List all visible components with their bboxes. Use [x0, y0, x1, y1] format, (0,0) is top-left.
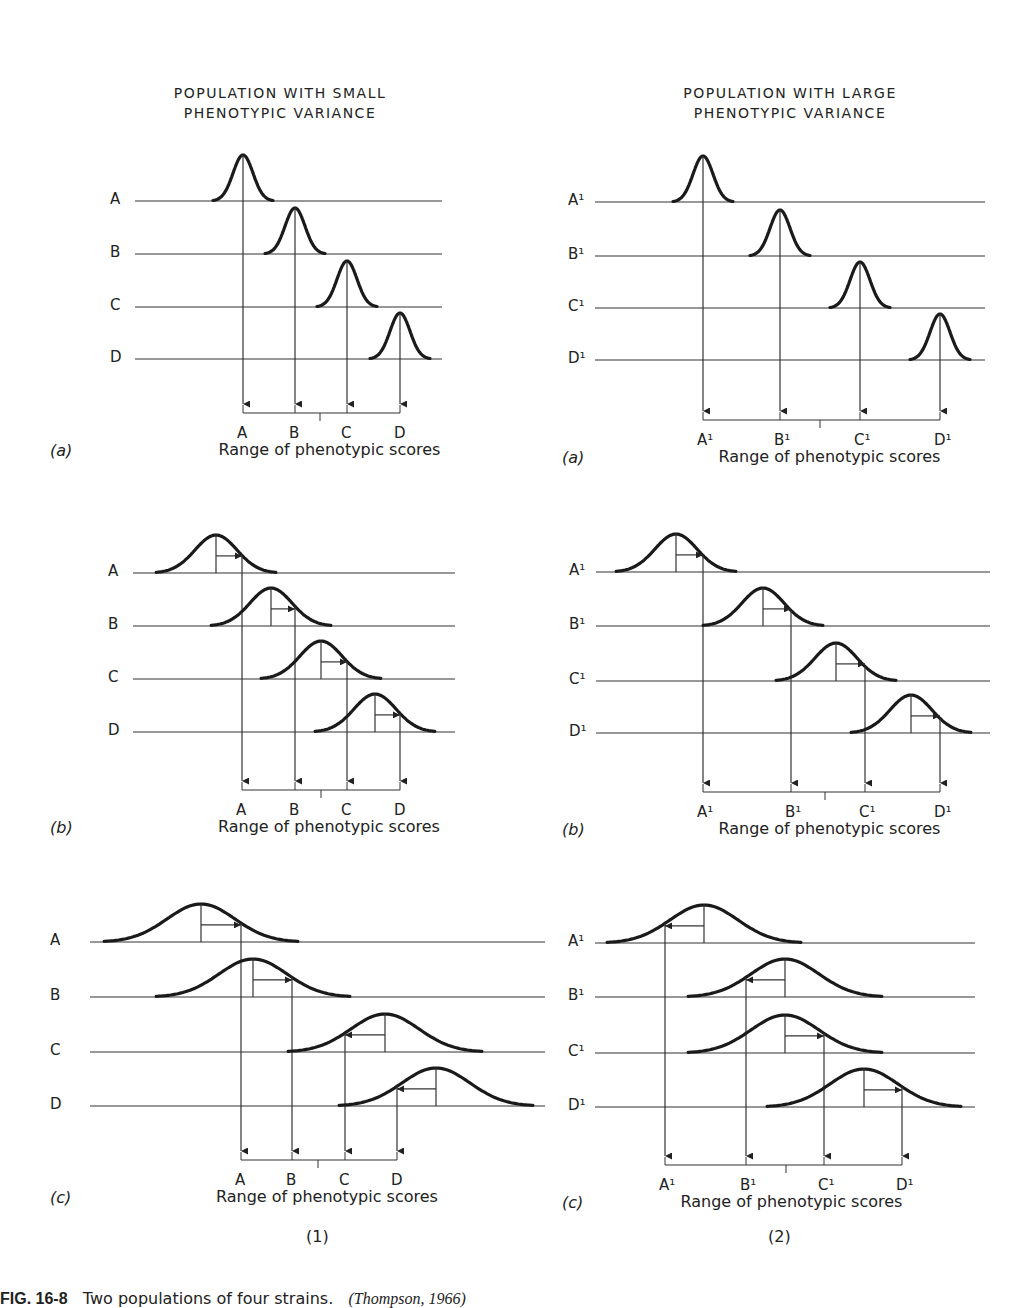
- axis-label-1: B: [286, 1173, 296, 1188]
- axis-label-0: A¹: [659, 1178, 675, 1193]
- axis-label-0: A: [236, 803, 246, 818]
- row-label-1: B¹: [569, 617, 585, 632]
- panel-label: (c): [50, 1190, 71, 1206]
- axis-label-0: A: [237, 426, 247, 441]
- row-label-3: D: [50, 1097, 62, 1112]
- axis-label-2: C¹: [818, 1178, 835, 1193]
- figure-caption: FIG. 16-8 Two populations of four strain…: [0, 1289, 466, 1308]
- caption-source: (Thompson, 1966): [349, 1290, 466, 1307]
- row-label-1: B¹: [568, 988, 584, 1003]
- column-label: (1): [306, 1229, 329, 1245]
- axis-label-3: D¹: [934, 805, 952, 820]
- panel-label: (a): [50, 443, 72, 459]
- row-label-0: A¹: [569, 563, 585, 578]
- row-label-3: D¹: [568, 351, 586, 366]
- axis-label-3: D¹: [896, 1178, 914, 1193]
- axis-label-3: D: [394, 426, 406, 441]
- row-label-1: B¹: [568, 247, 584, 262]
- row-label-0: A: [110, 192, 120, 207]
- axis-label-2: C¹: [859, 805, 876, 820]
- panel-label: (b): [562, 822, 585, 838]
- axis-title: Range of phenotypic scores: [216, 1189, 438, 1205]
- row-label-1: B: [50, 988, 60, 1003]
- row-label-2: C: [108, 670, 118, 685]
- column-label: (2): [768, 1229, 791, 1245]
- axis-label-0: A¹: [697, 433, 713, 448]
- axis-title: Range of phenotypic scores: [719, 449, 941, 465]
- row-label-0: A¹: [568, 193, 584, 208]
- axis-label-2: C¹: [854, 433, 871, 448]
- axis-label-3: D: [394, 803, 406, 818]
- row-label-2: C: [50, 1043, 60, 1058]
- axis-title: Range of phenotypic scores: [681, 1194, 903, 1210]
- panel-label: (c): [562, 1195, 583, 1211]
- row-label-3: D: [110, 350, 122, 365]
- axis-label-1: B¹: [774, 433, 790, 448]
- row-label-2: C: [110, 298, 120, 313]
- row-label-3: D¹: [569, 724, 587, 739]
- caption-text: Two populations of four strains.: [83, 1289, 333, 1308]
- axis-label-3: D: [391, 1173, 403, 1188]
- axis-label-1: B: [289, 426, 299, 441]
- row-label-0: A¹: [568, 934, 584, 949]
- row-label-3: D: [108, 723, 120, 738]
- axis-label-1: B: [289, 803, 299, 818]
- row-label-1: B: [108, 617, 118, 632]
- panel-label: (b): [50, 820, 73, 836]
- axis-label-2: C: [341, 426, 351, 441]
- axis-label-0: A: [235, 1173, 245, 1188]
- row-label-2: C¹: [569, 672, 586, 687]
- caption-fig-label: FIG. 16-8: [0, 1290, 68, 1307]
- row-label-0: A: [50, 933, 60, 948]
- axis-label-1: B¹: [740, 1178, 756, 1193]
- axis-label-3: D¹: [934, 433, 952, 448]
- row-label-2: C¹: [568, 1044, 585, 1059]
- row-label-1: B: [110, 245, 120, 260]
- axis-title: Range of phenotypic scores: [218, 819, 440, 835]
- axis-label-1: B¹: [785, 805, 801, 820]
- axis-label-0: A¹: [697, 805, 713, 820]
- row-label-2: C¹: [568, 299, 585, 314]
- panel-label: (a): [562, 450, 584, 466]
- row-label-3: D¹: [568, 1098, 586, 1113]
- axis-title: Range of phenotypic scores: [219, 442, 441, 458]
- axis-title: Range of phenotypic scores: [719, 821, 941, 837]
- axis-label-2: C: [339, 1173, 349, 1188]
- axis-label-2: C: [341, 803, 351, 818]
- row-label-0: A: [108, 564, 118, 579]
